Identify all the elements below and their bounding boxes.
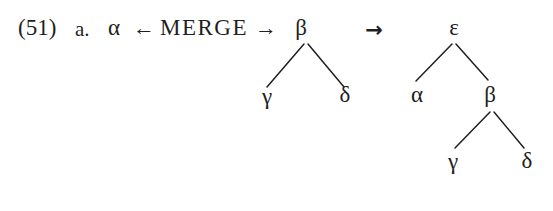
output-tree-left-leaf: α [411, 81, 423, 109]
input-tree-left-leaf: γ [262, 83, 272, 111]
input-tree-left-branch [267, 44, 304, 87]
left-arrow-icon: ← [133, 14, 155, 42]
output-subtree-left-branch [455, 112, 490, 148]
output-tree-left-branch [416, 44, 452, 81]
linguistics-example-figure: (51) a. α ← MERGE → β → ε γ δ α β γ δ [0, 0, 553, 211]
derivation-arrow-icon: → [365, 16, 383, 44]
input-tree-right-leaf: δ [340, 81, 351, 109]
item-label: a. [75, 15, 90, 43]
output-subtree-right-branch [494, 112, 524, 148]
example-number: (51) [18, 14, 56, 42]
output-tree-right-node: β [484, 81, 496, 109]
output-subtree-right-leaf: δ [522, 147, 533, 175]
merge-operator-label: MERGE [160, 14, 248, 42]
output-subtree-left-leaf: γ [448, 148, 458, 176]
output-tree-root-node: ε [449, 14, 459, 42]
input-tree-root-node: β [295, 14, 307, 42]
output-tree-right-branch [456, 44, 488, 80]
merge-left-operand: α [108, 14, 120, 42]
right-arrow-icon: → [255, 14, 277, 42]
